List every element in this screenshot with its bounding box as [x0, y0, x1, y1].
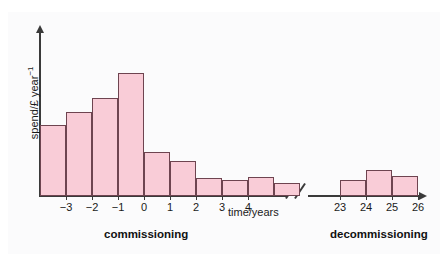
y-axis-label-text: spend/£ year [28, 76, 40, 140]
x-axis-right-tick [418, 196, 419, 200]
x-axis-left-tick [118, 196, 119, 200]
phase-label-decommissioning: decommissioning [330, 228, 428, 240]
x-axis-right-tick [340, 196, 341, 200]
x-axis-left-tick [170, 196, 171, 200]
x-axis-right-label: 23 [327, 201, 353, 213]
x-axis-arrowhead [419, 192, 427, 200]
bar-commissioning [118, 73, 144, 196]
x-axis-left-label: −1 [105, 201, 131, 213]
bar-commissioning [274, 183, 300, 196]
x-axis-right-tick [366, 196, 367, 200]
x-axis-left-tick [66, 196, 67, 200]
bar-commissioning [170, 161, 196, 196]
bar-commissioning [144, 152, 170, 196]
x-axis-left-tick [248, 196, 249, 200]
bar-commissioning [40, 125, 66, 196]
bar-decommissioning [392, 176, 418, 196]
x-axis-left-tick [196, 196, 197, 200]
x-axis-left-tick [222, 196, 223, 200]
x-axis-left-label: 2 [183, 201, 209, 213]
x-axis-left-label: −2 [79, 201, 105, 213]
bar-commissioning [196, 178, 222, 196]
phase-label-commissioning: commissioning [104, 228, 188, 240]
bar-commissioning [92, 98, 118, 196]
x-axis-left-label: −3 [53, 201, 79, 213]
bar-decommissioning [340, 180, 366, 196]
bar-commissioning [248, 177, 274, 196]
chart-screenshot: spend/£ year−1 −3−2−101234 23242526 time… [0, 0, 448, 264]
x-axis-right-tick [392, 196, 393, 200]
x-axis-label: time/years [228, 206, 279, 218]
y-axis-label-exponent: −1 [26, 66, 35, 75]
bar-chart-plot-area: spend/£ year−1 −3−2−101234 23242526 time… [0, 0, 448, 264]
x-axis-left-label: 0 [131, 201, 157, 213]
x-axis-right-label: 25 [379, 201, 405, 213]
x-axis-left-tick [144, 196, 145, 200]
y-axis-label: spend/£ year−1 [26, 48, 40, 158]
x-axis-right-label: 26 [405, 201, 431, 213]
bar-decommissioning [366, 170, 392, 196]
y-axis-arrowhead [36, 25, 44, 33]
x-axis-left-tick [92, 196, 93, 200]
bar-commissioning [66, 112, 92, 196]
bar-commissioning [222, 180, 248, 196]
x-axis-right-label: 24 [353, 201, 379, 213]
x-axis-left-label: 1 [157, 201, 183, 213]
